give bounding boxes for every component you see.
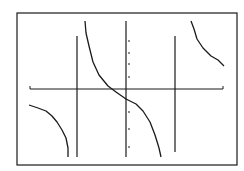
curve-branch: [191, 21, 224, 66]
y-ticks: [128, 41, 130, 147]
chart: [0, 0, 244, 171]
curve-branch: [29, 105, 68, 157]
